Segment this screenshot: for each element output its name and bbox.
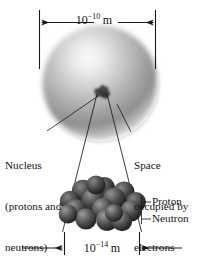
nucleus-dimension-label: 10−14m: [84, 241, 120, 256]
nucleus-label-line3: neutrons): [5, 241, 61, 255]
atom-dimension-exponent: −10: [88, 12, 100, 21]
nucleus-dimension-unit: m: [111, 241, 120, 255]
nucleus-label: Nucleus (protons and neutrons): [5, 132, 61, 261]
atom-dimension-mantissa: 10: [76, 13, 88, 27]
atom-dimension-unit: m: [103, 13, 112, 27]
atom-dimension-label: 10−10m: [76, 13, 112, 28]
nucleus-dimension-mantissa: 10: [84, 241, 96, 255]
electron-cloud: [42, 25, 159, 142]
electron-space-label-line1: Space: [134, 159, 188, 173]
nucleus-label-line1: Nucleus: [5, 159, 61, 173]
electron-space-label-line3: electrons: [134, 241, 188, 255]
nucleus-label-line2: (protons and: [5, 200, 61, 214]
nucleus-dimension-exponent: −14: [96, 240, 108, 249]
enlarged-nucleus-cluster: [59, 175, 146, 231]
neutron-label: Neutron: [152, 212, 189, 226]
proton-label: Proton: [152, 195, 182, 209]
atom-scale-diagram: 10−10m Nucleus (protons and neutrons) Sp…: [0, 0, 200, 261]
